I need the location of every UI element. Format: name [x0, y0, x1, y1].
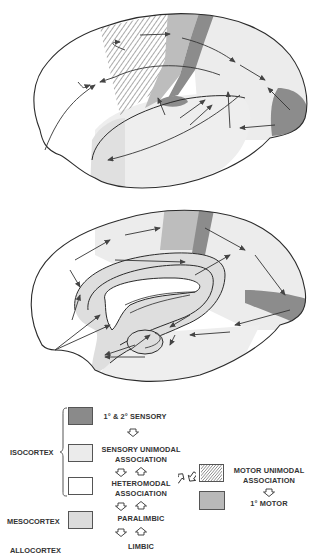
bidirectional-diagonal-arrow-icon [178, 467, 196, 489]
label-heteromodal-1: HETEROMODAL [96, 479, 186, 489]
label-paralimbic: PARALIMBIC [96, 514, 186, 524]
legend: ISOCORTEX MESOCORTEX ALLOCORTEX 1° & 2° … [0, 395, 321, 560]
mesocortex-label: MESOCORTEX [7, 517, 60, 526]
swatch-primary-motor [199, 491, 225, 510]
up-arrow-icon [135, 501, 147, 510]
down-arrow-icon [115, 502, 127, 511]
swatch-motor-unimodal [199, 464, 224, 482]
up-arrow-icon [135, 467, 147, 476]
down-arrow-icon [115, 528, 127, 537]
down-arrow-icon [127, 428, 139, 437]
label-primary-motor: 1° MOTOR [240, 499, 298, 509]
up-arrow-icon [135, 527, 147, 536]
medial-hemisphere [31, 205, 320, 385]
down-arrow-icon [263, 488, 275, 497]
label-motor-unimodal-2: ASSOCIATION [228, 476, 310, 486]
label-motor-unimodal-1: MOTOR UNIMODAL [228, 466, 310, 476]
swatch-sensory-unimodal [68, 444, 93, 462]
label-primary-sensory: 1° & 2° SENSORY [100, 412, 170, 422]
lateral-brain-view [0, 0, 321, 195]
down-arrow-icon [115, 468, 127, 477]
swatch-primary-sensory [68, 407, 93, 425]
isocortex-label: ISOCORTEX [10, 448, 54, 457]
label-heteromodal-2: ASSOCIATION [96, 489, 186, 499]
medial-brain-view [0, 195, 321, 395]
lateral-hemisphere [34, 10, 320, 190]
swatch-paralimbic [68, 511, 93, 529]
label-sensory-unimodal-2: ASSOCIATION [96, 455, 186, 465]
label-sensory-unimodal-1: SENSORY UNIMODAL [96, 445, 186, 455]
allocortex-label: ALLOCORTEX [10, 546, 61, 555]
swatch-heteromodal [68, 477, 93, 495]
label-limbic: LIMBIC [96, 542, 186, 552]
isocortex-brace [60, 407, 68, 497]
